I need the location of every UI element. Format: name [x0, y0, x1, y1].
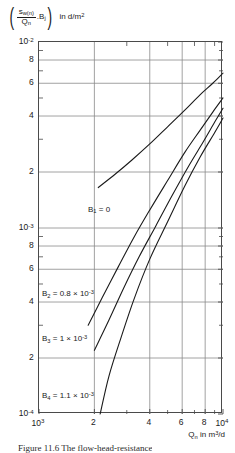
curve-label-B4: B4 = 1.1 × 10-3	[42, 391, 94, 401]
figure-caption: Figure 11.6 The flow-head-resistance	[18, 443, 152, 453]
y-label-denominator: Qn	[20, 18, 33, 26]
curve-B1	[98, 73, 223, 187]
y-tick-label: 10-3	[0, 222, 36, 233]
y-label-fraction: sw(n) Qn	[17, 8, 36, 26]
y-label-close-paren: )	[47, 8, 52, 26]
x-tick-label: 2	[91, 417, 96, 427]
y-tick-label: 6	[0, 263, 36, 273]
x-axis-label: Qn in m3/d	[188, 430, 225, 440]
plot-area	[38, 41, 222, 413]
y-label-open-paren: (	[10, 8, 15, 26]
y-tick-label: 4	[0, 110, 36, 120]
y-tick-label: 8	[0, 240, 36, 250]
y-label-units: in d/m2	[59, 13, 84, 21]
y-label-multiplier: .Bj	[37, 13, 46, 22]
figure-container: ( sw(n) Qn .Bj ) in d/m2 10-2 8 6 4 2 10…	[0, 0, 235, 453]
curve-B3	[94, 108, 223, 350]
x-tick-label: 6	[179, 417, 184, 427]
y-tick-label: 6	[0, 77, 36, 87]
curves-layer	[39, 42, 223, 414]
y-label-numerator: sw(n)	[17, 8, 36, 16]
x-tick-label: 104	[216, 417, 229, 428]
y-tick-label: 8	[0, 54, 36, 64]
curve-label-B2: B2 = 0.8 × 10-3	[42, 289, 94, 299]
y-tick-label: 4	[0, 296, 36, 306]
y-axis-label: ( sw(n) Qn .Bj ) in d/m2	[8, 8, 84, 26]
y-tick-label: 10-2	[0, 36, 36, 47]
x-tick-label: 4	[146, 417, 151, 427]
x-tick-label: 103	[32, 417, 45, 428]
y-tick-label: 2	[0, 166, 36, 176]
curve-label-B3: B3 = 1 × 10-3	[42, 334, 87, 344]
x-tick-label: 8	[202, 417, 207, 427]
curve-label-B1: B1 = 0	[88, 205, 110, 214]
y-tick-label: 2	[0, 352, 36, 362]
